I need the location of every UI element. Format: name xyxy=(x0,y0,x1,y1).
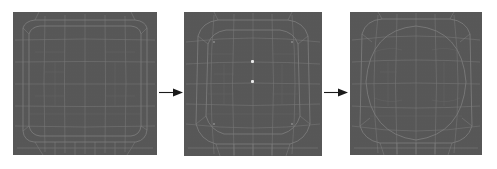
panel-initial-mesh xyxy=(13,12,157,155)
panel-final-mesh xyxy=(350,12,482,155)
mesh-graphic-intermediate xyxy=(184,12,322,156)
panel-intermediate-mesh xyxy=(184,12,322,156)
mesh-graphic-initial xyxy=(13,12,157,155)
mesh-graphic-final xyxy=(350,12,482,155)
seed-point-lower xyxy=(251,80,254,83)
mesh-progression-figure xyxy=(0,0,497,169)
seed-point-upper xyxy=(251,60,254,63)
arrow-step-1-to-2 xyxy=(159,87,183,98)
arrow-step-2-to-3 xyxy=(324,87,348,98)
